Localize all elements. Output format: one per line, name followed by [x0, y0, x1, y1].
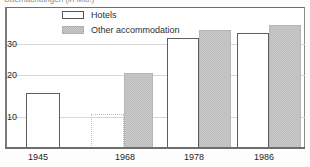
chart-legend: Hotels Other accommodation	[62, 9, 180, 39]
legend-swatch-other-icon	[62, 26, 84, 34]
xtick-label-1986: 1986	[244, 153, 284, 162]
legend-item-hotels: Hotels	[62, 9, 180, 21]
bar-1945-hotels	[26, 93, 60, 148]
bar-1968-other	[124, 73, 153, 148]
legend-item-other: Other accommodation	[62, 24, 180, 36]
bar-1978-other	[199, 30, 231, 148]
chart-caption-clipped: Übernachtungen (in Mio.)	[0, 0, 310, 7]
bar-1978-hotels	[167, 38, 199, 148]
legend-swatch-hotels-icon	[62, 11, 84, 19]
chart-caption-text: Übernachtungen (in Mio.)	[4, 0, 310, 4]
bar-group-1986	[237, 7, 301, 148]
legend-label-other: Other accommodation	[91, 26, 180, 35]
bar-1986-other	[269, 25, 301, 148]
bar-1968-hotels	[91, 114, 124, 148]
xtick-label-1978: 1978	[174, 153, 214, 162]
bar-1986-hotels	[237, 33, 269, 148]
xtick-label-1968: 1968	[105, 153, 145, 162]
xtick-label-1945: 1945	[18, 153, 58, 162]
legend-label-hotels: Hotels	[91, 11, 117, 20]
x-axis-baseline	[5, 147, 305, 149]
bar-chart: Übernachtungen (in Mio.) 30 20 10 1945 1…	[0, 0, 310, 167]
